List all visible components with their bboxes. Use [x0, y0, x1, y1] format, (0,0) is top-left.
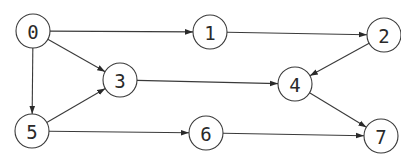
node-5: 5: [15, 114, 49, 148]
edge-0-to-5: [32, 48, 33, 114]
node-label: 3: [114, 70, 125, 92]
node-6: 6: [189, 116, 223, 150]
edge-5-to-6: [49, 131, 189, 133]
node-3: 3: [103, 63, 137, 97]
node-label: 6: [200, 123, 211, 145]
edge-1-to-2: [227, 32, 367, 34]
edge-0-to-1: [50, 31, 193, 32]
node-label: 0: [27, 21, 38, 43]
node-label: 1: [204, 22, 215, 44]
edge-0-to-3: [48, 39, 105, 71]
node-7: 7: [364, 119, 398, 153]
edge-3-to-4: [137, 80, 278, 83]
node-label: 4: [289, 74, 300, 96]
edge-2-to-4: [310, 43, 369, 76]
node-2: 2: [367, 18, 401, 52]
node-1: 1: [193, 15, 227, 49]
edge-6-to-7: [223, 133, 364, 135]
nodes-layer: 01234567: [15, 14, 401, 153]
node-label: 2: [378, 25, 389, 47]
node-label: 7: [375, 126, 386, 148]
node-4: 4: [278, 67, 312, 101]
directed-graph-diagram: 01234567: [0, 0, 401, 155]
edge-5-to-3: [47, 89, 106, 123]
node-0: 0: [16, 14, 50, 48]
edge-4-to-7: [310, 93, 367, 127]
node-label: 5: [26, 121, 37, 143]
